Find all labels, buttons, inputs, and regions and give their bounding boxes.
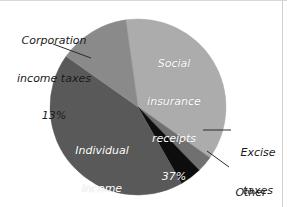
corporation-label-line2: income taxes <box>2 73 106 86</box>
slice-label-social-insurance-receipts: Social insurance receipts 37% <box>134 33 214 207</box>
corporation-label-line1: Corporation <box>2 35 106 48</box>
slice-label-individual-income-taxes: Individual income taxes 43% <box>61 120 143 207</box>
slice-label-other: Other 4% <box>226 162 276 207</box>
social-value: 37% <box>134 171 214 184</box>
individual-label-line2: income <box>61 183 143 196</box>
social-label-line2: insurance <box>134 96 214 109</box>
social-label-line3: receipts <box>134 133 214 146</box>
excise-label-line1: Excise <box>232 147 284 160</box>
other-label-line1: Other <box>226 187 276 200</box>
individual-label-line1: Individual <box>61 145 143 158</box>
social-label-line1: Social <box>134 58 214 71</box>
pie-chart-figure: Corporation income taxes 13% Social insu… <box>0 0 287 207</box>
